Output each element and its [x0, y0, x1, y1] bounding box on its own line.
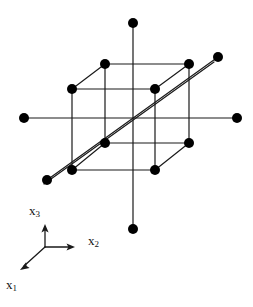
lattice-dot-x2-positive-end	[232, 113, 242, 123]
axis-label-x1: x1	[6, 277, 17, 293]
axis-label-x2-subscript: 2	[95, 239, 100, 249]
lattice-dot-top-back-left	[100, 59, 110, 69]
lattice-dot-bottom-front-right	[150, 165, 160, 175]
lattice-dot-diagonal-lower-end	[42, 175, 52, 185]
axis-label-x1-subscript: 1	[13, 283, 18, 293]
lattice-dot-x2-negative-end	[19, 113, 29, 123]
lattice-dot-top-front-left	[67, 84, 77, 94]
lattice-dot-top-back-right	[184, 59, 194, 69]
lattice-dot-x3-negative-end	[128, 224, 138, 234]
lattice-dot-bottom-back-left	[100, 138, 110, 148]
lattice-dot-bottom-front-left	[67, 165, 77, 175]
lattice-dot-bottom-back-right	[184, 138, 194, 148]
lattice-dot-x3-positive-end	[128, 18, 138, 28]
lattice-dot-top-front-right	[150, 84, 160, 94]
axis-label-x2: x2	[88, 233, 99, 249]
axis-label-x1-base: x	[6, 277, 13, 292]
axis-label-x3-subscript: 3	[36, 209, 41, 219]
axis-label-x2-base: x	[88, 233, 95, 248]
lattice-figure: x3 x2 x1	[0, 0, 253, 307]
lattice-dot-diagonal-upper-end	[213, 52, 223, 62]
figure-background	[0, 0, 253, 307]
lattice-diagram-svg	[0, 0, 253, 307]
axis-label-x3: x3	[29, 203, 40, 219]
axis-label-x3-base: x	[29, 203, 36, 218]
